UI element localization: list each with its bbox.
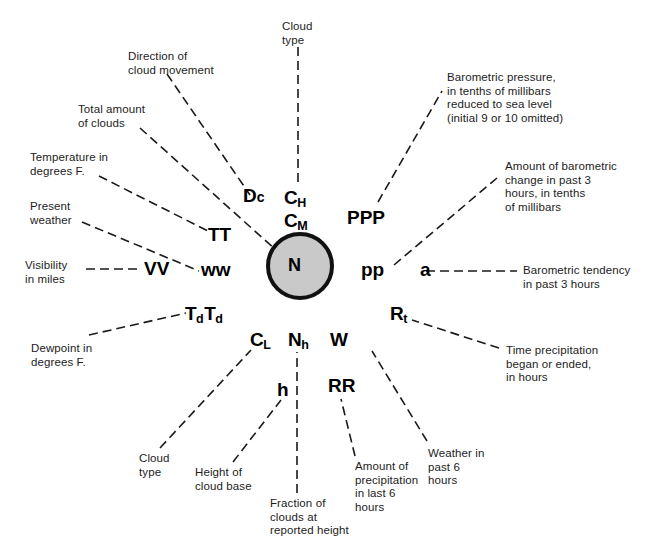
symbol-cl-main: C: [250, 329, 264, 350]
label-cloud-type-low: Cloud type: [139, 452, 170, 479]
symbol-rr: RR: [328, 375, 355, 397]
label-cloud-type-high: Cloud type: [282, 20, 313, 47]
symbol-cl: CL: [250, 329, 271, 351]
symbol-n: N: [288, 255, 301, 276]
leader-line-amount-precipitation: [341, 399, 355, 456]
leader-line-weather-past-6-hours: [372, 351, 427, 441]
label-dewpoint: Dewpoint in degrees F.: [31, 342, 92, 369]
symbol-ch-sub: H: [297, 196, 306, 210]
leader-line-time-precipitation: [412, 320, 499, 348]
symbol-rt-main: R: [390, 303, 404, 324]
symbol-h: h: [277, 379, 289, 401]
symbol-dc: Dc: [243, 185, 265, 207]
symbol-vv: VV: [144, 258, 169, 280]
symbol-ww: ww: [201, 259, 231, 281]
symbol-dc-main: D: [243, 185, 257, 206]
label-total-amount-of-clouds: Total amount of clouds: [78, 103, 145, 130]
symbol-w: W: [330, 329, 348, 351]
label-time-precipitation: Time precipitation began or ended, in ho…: [506, 344, 598, 385]
symbol-cm-sub: M: [297, 219, 307, 233]
symbol-nh-sub: h: [301, 338, 309, 352]
symbol-ppp: PPP: [347, 207, 385, 229]
symbol-nh-main: N: [288, 329, 302, 350]
label-barometric-tendency: Barometric tendency in past 3 hours: [523, 264, 630, 291]
symbol-ch: CH: [284, 187, 307, 209]
leader-line-direction-cloud-movement: [167, 74, 250, 195]
symbol-dc-sub: c: [257, 189, 265, 205]
symbol-nh: Nh: [288, 329, 309, 351]
label-visibility: Visibility in miles: [25, 259, 67, 286]
label-fraction-of-clouds: Fraction of clouds at reported height: [270, 497, 349, 538]
symbol-td1-sub: d: [196, 312, 204, 326]
label-barometric-pressure: Barometric pressure, in tenths of millib…: [447, 71, 563, 125]
leader-line-height-cloud-base: [233, 400, 281, 462]
station-model-diagram: N Direction of cloud movement Cloud type…: [0, 0, 649, 553]
label-amount-of-precipitation: Amount of precipitation in last 6 hours: [355, 460, 418, 514]
symbol-rt-sub: t: [403, 312, 407, 326]
leader-line-amount-barometric-change: [394, 178, 497, 265]
leader-line-barometric-pressure: [378, 91, 442, 202]
symbol-tt: TT: [208, 224, 231, 246]
symbol-tdtd: TdTd: [185, 303, 224, 325]
symbol-ch-main: C: [284, 187, 298, 208]
symbol-td2-sub: d: [215, 312, 223, 326]
symbol-cl-sub: L: [263, 338, 271, 352]
symbol-a: a: [420, 259, 431, 281]
label-weather-past-6-hours: Weather in past 6 hours: [428, 447, 484, 488]
symbol-pp: pp: [361, 259, 384, 281]
leader-line-dewpoint: [89, 313, 186, 335]
leader-line-cloud-type-low: [160, 350, 251, 448]
label-direction-of-cloud-movement: Direction of cloud movement: [128, 50, 214, 77]
leader-line-temperature: [99, 176, 208, 231]
symbol-cm: CM: [284, 210, 308, 232]
symbol-rt: Rt: [390, 303, 408, 325]
symbol-cm-main: C: [284, 210, 298, 231]
label-present-weather: Present weather: [30, 200, 72, 227]
label-height-of-cloud-base: Height of cloud base: [195, 466, 252, 493]
label-temperature: Temperature in degrees F.: [30, 151, 108, 178]
leader-line-present-weather: [82, 222, 199, 271]
label-amount-of-barometric-change: Amount of barometric change in past 3 ho…: [505, 160, 617, 214]
symbol-td1-main: T: [185, 303, 197, 324]
